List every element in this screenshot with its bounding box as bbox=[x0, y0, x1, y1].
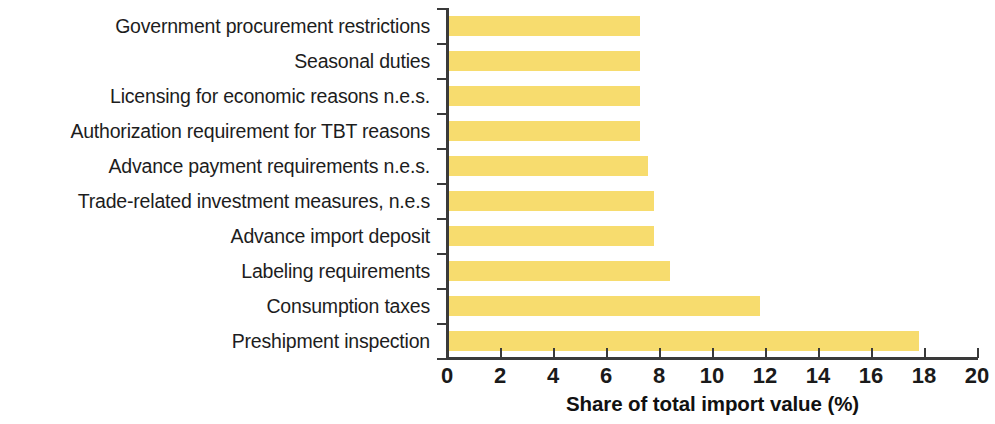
x-axis-tick-label: 18 bbox=[894, 363, 954, 389]
y-axis-tick bbox=[437, 218, 447, 220]
plot-area bbox=[447, 8, 977, 358]
category-label: Advance payment requirements n.e.s. bbox=[0, 155, 430, 177]
x-axis-tick-label: 8 bbox=[629, 363, 689, 389]
x-axis-tick bbox=[659, 348, 661, 358]
category-label: Preshipment inspection bbox=[0, 330, 430, 352]
bar bbox=[447, 86, 640, 106]
y-axis-tick bbox=[437, 8, 447, 10]
y-axis-tick bbox=[437, 358, 447, 360]
x-axis-tick bbox=[924, 348, 926, 358]
y-axis-tick bbox=[437, 43, 447, 45]
category-label: Advance import deposit bbox=[0, 225, 430, 247]
x-axis-tick bbox=[712, 348, 714, 358]
x-axis-tick-label: 10 bbox=[682, 363, 742, 389]
y-axis-tick bbox=[437, 253, 447, 255]
y-axis-tick bbox=[437, 78, 447, 80]
bar bbox=[447, 156, 648, 176]
x-axis-tick-label: 20 bbox=[947, 363, 995, 389]
x-axis-tick-label: 4 bbox=[523, 363, 583, 389]
horizontal-bar-chart: Government procurement restrictionsSeaso… bbox=[0, 0, 995, 424]
x-axis-tick-label: 16 bbox=[841, 363, 901, 389]
category-label: Licensing for economic reasons n.e.s. bbox=[0, 85, 430, 107]
bar bbox=[447, 296, 760, 316]
y-axis-tick bbox=[437, 183, 447, 185]
bar bbox=[447, 261, 670, 281]
x-axis-tick-label: 2 bbox=[470, 363, 530, 389]
bar bbox=[447, 226, 654, 246]
x-axis-tick bbox=[553, 348, 555, 358]
x-axis-tick-label: 14 bbox=[788, 363, 848, 389]
x-axis-tick bbox=[606, 348, 608, 358]
bar bbox=[447, 121, 640, 141]
bar bbox=[447, 331, 919, 351]
x-axis-tick-label: 12 bbox=[735, 363, 795, 389]
category-label: Authorization requirement for TBT reason… bbox=[0, 120, 430, 142]
x-axis-tick bbox=[765, 348, 767, 358]
x-axis-tick-label: 6 bbox=[576, 363, 636, 389]
x-axis-title: Share of total import value (%) bbox=[447, 392, 978, 416]
x-axis-tick bbox=[871, 348, 873, 358]
bar bbox=[447, 51, 640, 71]
category-label: Trade-related investment measures, n.e.s bbox=[0, 190, 430, 212]
x-axis-tick bbox=[977, 348, 979, 358]
category-label: Government procurement restrictions bbox=[0, 15, 430, 37]
x-axis-tick bbox=[500, 348, 502, 358]
y-axis-tick bbox=[437, 113, 447, 115]
x-axis-tick-label: 0 bbox=[417, 363, 477, 389]
y-axis-tick bbox=[437, 288, 447, 290]
y-axis-tick bbox=[437, 148, 447, 150]
category-label: Labeling requirements bbox=[0, 260, 430, 282]
x-axis-tick bbox=[818, 348, 820, 358]
x-axis-tick bbox=[447, 348, 449, 358]
y-axis-tick bbox=[437, 323, 447, 325]
category-label: Consumption taxes bbox=[0, 295, 430, 317]
bar bbox=[447, 16, 640, 36]
category-label: Seasonal duties bbox=[0, 50, 430, 72]
bar bbox=[447, 191, 654, 211]
category-axis-labels: Government procurement restrictionsSeaso… bbox=[0, 8, 438, 358]
